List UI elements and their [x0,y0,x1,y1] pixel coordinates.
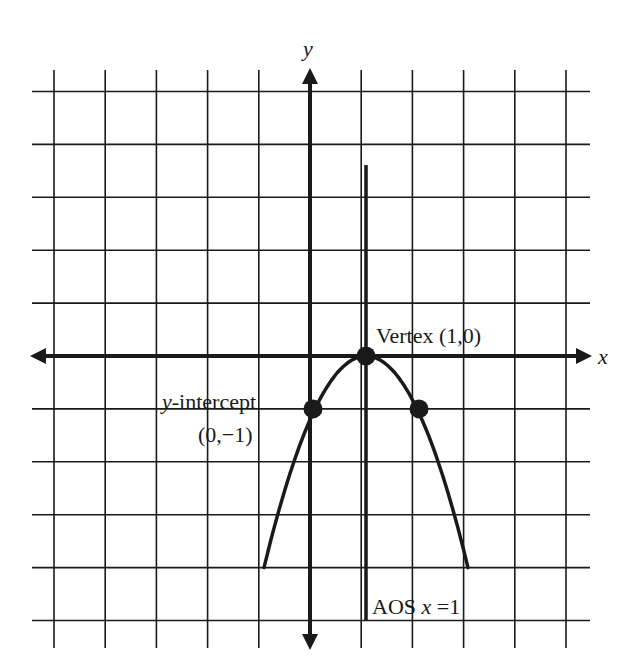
y-axis-up-arrow-icon [302,68,318,84]
coordinate-plane: y x Vertex (1,0) y-intercept (0,−1) AOS … [0,0,638,669]
aos-prefix: AOS [372,594,422,619]
aos-label: AOS x =1 [372,594,460,619]
y-axis-label: y [301,36,313,61]
vertex-point [357,347,376,366]
y-intercept-point [304,399,323,418]
symmetric-point-point [410,399,429,418]
y-axis-down-arrow-icon [302,634,318,650]
y-intercept-var: y [160,389,172,414]
y-intercept-word: -intercept [172,389,256,414]
vertex-label: Vertex (1,0) [376,323,481,348]
x-axis-right-arrow-icon [576,348,592,364]
y-intercept-label: y-intercept [160,389,256,414]
x-axis-label: x [597,344,608,369]
y-intercept-coords: (0,−1) [198,422,253,447]
aos-var: x [421,594,432,619]
x-axis-left-arrow-icon [30,348,46,364]
aos-suffix: =1 [431,594,460,619]
axes [30,68,592,650]
parabola-graph: y x Vertex (1,0) y-intercept (0,−1) AOS … [0,0,638,669]
